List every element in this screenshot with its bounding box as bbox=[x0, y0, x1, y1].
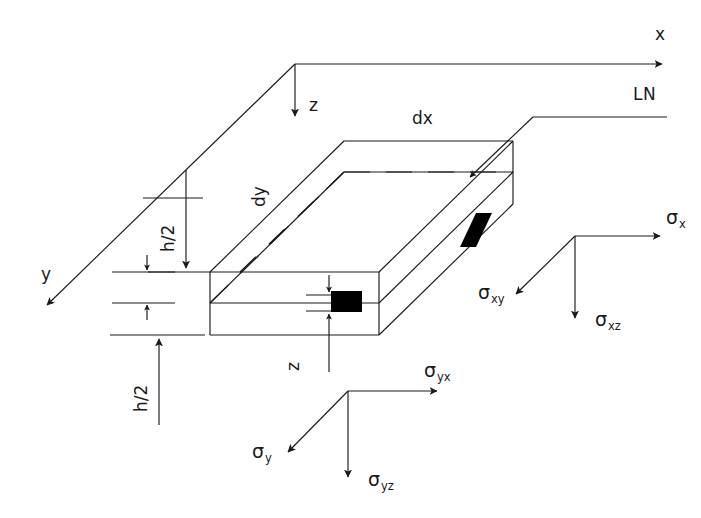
axis-z-label: z bbox=[309, 97, 318, 114]
sigma-xy-subscript: xy bbox=[491, 292, 505, 306]
sigma-yz-label: σyz bbox=[368, 470, 393, 489]
sigma-x-label: σx bbox=[666, 208, 685, 227]
dimension-depth-z-label: z bbox=[285, 362, 302, 371]
dimension-dy-label: dy bbox=[251, 186, 268, 207]
sigma-xz-label: σxz bbox=[595, 310, 620, 329]
sigma-yz-symbol: σ bbox=[368, 468, 380, 490]
diagram-vector-layer bbox=[0, 0, 701, 518]
global-axes-group bbox=[47, 64, 662, 305]
sigma-yx-symbol: σ bbox=[424, 359, 436, 381]
sigma-xz-symbol: σ bbox=[595, 308, 607, 330]
sigma-yx-label: σyx bbox=[424, 361, 450, 380]
stress-triad-y-face bbox=[288, 391, 437, 477]
dimension-h-half-upper-label: h/2 bbox=[160, 225, 177, 252]
sigma-yx-subscript: yx bbox=[437, 370, 451, 384]
dimension-h-half-lower-label: h/2 bbox=[133, 385, 150, 412]
sigma-y-symbol: σ bbox=[252, 440, 264, 462]
sigma-xy-symbol: σ bbox=[478, 281, 490, 303]
ln-leader-diagonal bbox=[470, 117, 533, 177]
stress-triad-x-face bbox=[516, 236, 660, 318]
axis-y-line bbox=[47, 64, 295, 305]
sigma-x-symbol: σ bbox=[666, 206, 678, 228]
sigma-xy-arrow bbox=[516, 236, 575, 294]
dimension-h-half-lower bbox=[110, 335, 205, 425]
neutral-line-label: LN bbox=[633, 86, 656, 103]
dimension-thin-middle bbox=[112, 255, 175, 320]
axis-y-label: y bbox=[41, 266, 51, 283]
top-face-left-edge bbox=[210, 141, 344, 272]
sigma-x-subscript: x bbox=[679, 217, 686, 231]
sigma-yz-subscript: yz bbox=[381, 479, 394, 493]
dimension-dx-label: dx bbox=[412, 110, 433, 127]
top-face-right-edge bbox=[379, 141, 513, 272]
sigma-y-label: σy bbox=[252, 442, 271, 461]
axis-x-label: x bbox=[655, 26, 665, 43]
dimension-depth-z bbox=[306, 275, 352, 372]
sigma-y-subscript: y bbox=[265, 451, 272, 465]
neutral-line-leader bbox=[470, 117, 667, 177]
dimension-h-half-upper bbox=[143, 170, 210, 272]
sigma-xz-subscript: xz bbox=[608, 319, 621, 333]
bottom-right-diagonal-edge bbox=[379, 204, 513, 335]
sigma-xy-label: σxy bbox=[478, 283, 504, 302]
diagram-canvas: x y z LN dx dy h/2 h/2 z σx σxy σxz σyx … bbox=[0, 0, 701, 518]
stress-point-marker-front bbox=[331, 291, 362, 312]
sigma-y-arrow bbox=[288, 391, 348, 452]
